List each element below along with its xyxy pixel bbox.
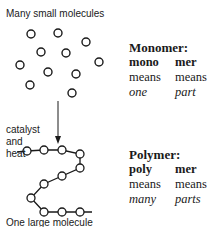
monomer-icon <box>26 81 34 89</box>
monomer-icon <box>44 68 52 76</box>
condition-line: catalyst <box>6 124 40 136</box>
means-label: means <box>175 177 207 192</box>
meaning-row: many parts <box>129 192 207 207</box>
prefix-row: mono mer <box>129 55 207 70</box>
prefix: mono <box>129 55 175 70</box>
bottom-caption: One large molecule <box>6 217 93 227</box>
monomer-icon <box>95 58 103 66</box>
monomer-icon <box>16 61 24 69</box>
polymer-title: Polymer: <box>129 147 207 162</box>
monomer-circles <box>16 29 103 97</box>
polymer-definition: Polymer: poly mer means means many parts <box>129 147 207 207</box>
means-row: means means <box>129 177 207 192</box>
meaning: parts <box>175 192 201 207</box>
monomer-icon <box>62 49 70 57</box>
means-label: means <box>129 177 175 192</box>
reaction-conditions: catalyst and heat <box>6 124 40 160</box>
means-label: means <box>129 70 175 85</box>
monomer-icon <box>68 89 76 97</box>
meaning: part <box>175 85 196 100</box>
monomer-icon <box>72 70 80 78</box>
means-row: means means <box>129 70 207 85</box>
top-caption: Many small molecules <box>6 8 104 19</box>
monomer-icon <box>27 30 35 38</box>
monomer-icon <box>82 38 90 46</box>
condition-line: heat <box>6 148 40 160</box>
prefix-row: poly mer <box>129 162 207 177</box>
meaning-row: one part <box>129 85 207 100</box>
monomer-icon <box>54 29 62 37</box>
prefix: mer <box>175 55 197 70</box>
monomer-title: Monomer: <box>129 40 207 55</box>
condition-line: and <box>6 136 40 148</box>
meaning: one <box>129 85 175 100</box>
monomer-icon <box>37 48 45 56</box>
monomer-definition: Monomer: mono mer means means one part <box>129 40 207 100</box>
prefix: poly <box>129 162 175 177</box>
reaction-arrow-icon <box>55 101 61 144</box>
meaning: many <box>129 192 175 207</box>
prefix: mer <box>175 162 197 177</box>
means-label: means <box>175 70 207 85</box>
